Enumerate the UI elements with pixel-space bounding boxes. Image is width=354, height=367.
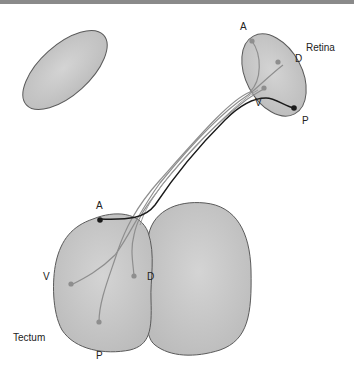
retina-axis-v: V [255,97,262,108]
axon-p-to-a [100,98,294,219]
retina-axis-d: D [295,53,302,64]
tectum-right-lobe [147,203,252,356]
retina-axis-p: P [302,115,309,126]
tectum-label: Tectum [13,332,45,343]
tectum-dot-p [96,319,101,324]
tectum-dot-d [131,273,136,278]
tectum-dot-a [97,217,103,223]
tectum-shape [54,214,153,352]
other-eye [10,17,121,124]
retina-dot-p [291,105,297,111]
tectum-dot-v [68,281,73,286]
retina-dot-a [249,38,254,43]
tectum-axis-a: A [96,200,103,211]
retina-dot-v [261,85,266,90]
retinotectal-diagram: Retina A D V P Tectum A V D P [0,0,354,367]
retina-shape [229,23,320,127]
tectum-axis-p: P [96,350,103,361]
tectum-axis-d: D [147,271,154,282]
retina-label: Retina [306,42,335,53]
retina-dot-d [275,59,280,64]
tectum-axis-v: V [43,271,50,282]
retina-axis-a: A [240,21,247,32]
